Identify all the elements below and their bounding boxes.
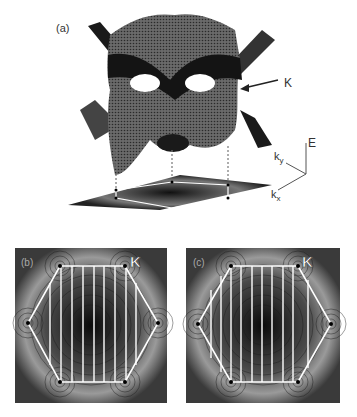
base-plane-contour <box>68 175 272 210</box>
band-surface-3d <box>80 14 275 175</box>
panel-c-contour-map <box>183 248 346 403</box>
energy-axis-label: E <box>308 136 316 150</box>
panel-c-k-label: K <box>302 253 313 270</box>
arrow-head-icon <box>240 84 249 92</box>
panel-b-contour-map <box>13 248 173 403</box>
kx-axis-label: kx <box>271 188 281 203</box>
ky-axis-label: ky <box>274 150 284 165</box>
k-point-label: K <box>284 76 292 90</box>
panel-c-label: (c) <box>193 257 205 268</box>
panel-b-label: (b) <box>21 257 33 268</box>
panel-b-k-label: K <box>130 253 141 270</box>
panel-a-label: (a) <box>56 22 69 34</box>
k-point-arrow <box>244 80 278 88</box>
